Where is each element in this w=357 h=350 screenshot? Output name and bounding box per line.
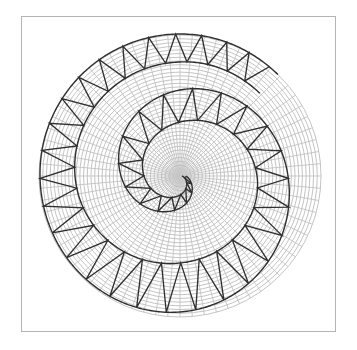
spiral-diagram — [0, 0, 357, 350]
